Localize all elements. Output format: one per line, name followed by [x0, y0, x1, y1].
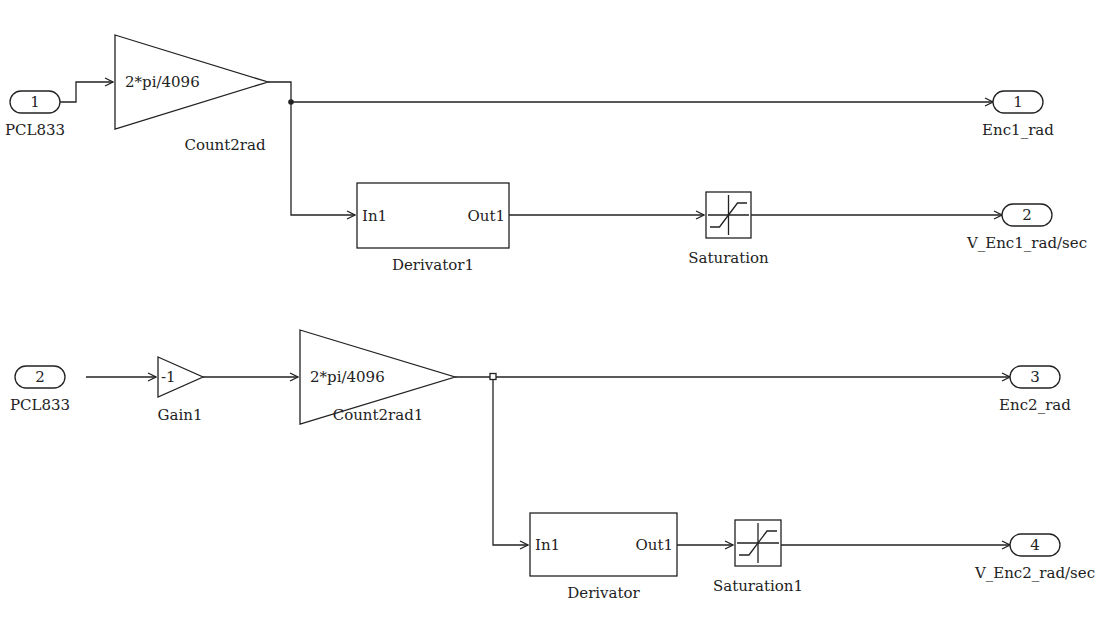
subsystem-derivator[interactable]: In1Out1Derivator — [530, 513, 677, 602]
outport-number: 2 — [1022, 206, 1032, 224]
inport-label: PCL833 — [5, 121, 65, 139]
gain-value: -1 — [161, 368, 176, 386]
branch-point-2 — [490, 374, 496, 380]
subsystem-label: Derivator1 — [392, 256, 474, 274]
gain-label: Count2rad1 — [333, 406, 424, 424]
outport-number: 1 — [1013, 93, 1023, 111]
outports: 1Enc1_rad2V_Enc1_rad/sec3Enc2_rad4V_Enc2… — [966, 91, 1095, 582]
outport-out3[interactable]: 3Enc2_rad — [999, 366, 1071, 414]
inport-number: 2 — [35, 368, 45, 386]
subsystem-in-port-label: In1 — [362, 207, 387, 225]
subsystem-out-port-label: Out1 — [467, 207, 505, 225]
outport-label: V_Enc2_rad/sec — [974, 564, 1095, 582]
saturation-saturation[interactable]: Saturation — [688, 192, 769, 267]
subsystem-in-port-label: In1 — [535, 536, 560, 554]
inports: 1PCL8332PCL833 — [5, 91, 70, 414]
diagram-canvas: 1PCL8332PCL833 2*pi/4096Count2rad-1Gain1… — [0, 0, 1118, 627]
outport-label: Enc1_rad — [982, 121, 1054, 139]
gain-label: Gain1 — [158, 406, 203, 424]
inport-in1[interactable]: 1PCL833 — [5, 91, 65, 139]
outport-out2[interactable]: 2V_Enc1_rad/sec — [966, 204, 1087, 252]
gain-count2rad[interactable]: 2*pi/4096Count2rad — [115, 35, 268, 154]
line-in1-to-count2rad — [60, 82, 113, 102]
line-branch-to-derivator — [493, 380, 528, 545]
gain-value: 2*pi/4096 — [125, 73, 200, 91]
gain-gain1[interactable]: -1Gain1 — [158, 357, 203, 424]
outport-number: 3 — [1030, 368, 1040, 386]
outport-label: Enc2_rad — [999, 396, 1071, 414]
gain-count2rad1[interactable]: 2*pi/4096Count2rad1 — [300, 330, 455, 424]
inport-label: PCL833 — [10, 396, 70, 414]
inport-number: 1 — [30, 93, 40, 111]
saturation-blocks: SaturationSaturation1 — [688, 192, 803, 595]
line-count2rad-to-out1 — [268, 82, 993, 102]
outport-label: V_Enc1_rad/sec — [966, 234, 1087, 252]
gain-label: Count2rad — [184, 136, 266, 154]
outport-out4[interactable]: 4V_Enc2_rad/sec — [974, 534, 1095, 582]
outport-out1[interactable]: 1Enc1_rad — [982, 91, 1054, 139]
inport-in2[interactable]: 2PCL833 — [10, 366, 70, 414]
subsystem-out-port-label: Out1 — [635, 536, 673, 554]
line-branch-to-derivator1 — [291, 102, 355, 215]
outport-number: 4 — [1030, 536, 1040, 554]
saturation-label: Saturation — [688, 249, 769, 267]
gain-value: 2*pi/4096 — [310, 368, 385, 386]
subsystem-label: Derivator — [567, 584, 640, 602]
subsystem-derivator1[interactable]: In1Out1Derivator1 — [357, 183, 509, 274]
saturation-label: Saturation1 — [713, 577, 803, 595]
saturation-saturation1[interactable]: Saturation1 — [713, 520, 803, 595]
